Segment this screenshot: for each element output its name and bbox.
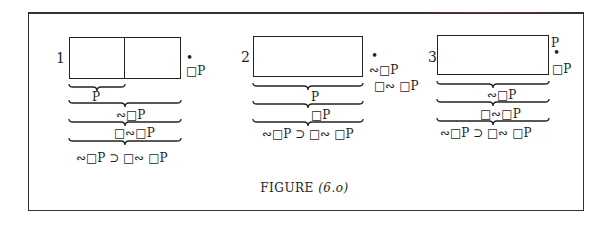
panel-number: 1: [56, 51, 65, 65]
side-label: □P: [186, 65, 205, 77]
brace-icon: [253, 82, 363, 90]
world-dot: •: [553, 47, 560, 59]
formula: ∾□P ⊃ □∾ □P: [440, 127, 532, 139]
world-box: [253, 36, 363, 77]
caption-number: (6.o): [318, 181, 349, 195]
world-dot: •: [371, 50, 378, 62]
side-label: □∾ □P: [374, 80, 419, 92]
world-divider: [124, 38, 125, 78]
formula: ∾□P ⊃ □∾ □P: [76, 152, 168, 164]
formula: ∾□P ⊃ □∾ □P: [262, 128, 354, 140]
brace-icon: [69, 99, 181, 107]
brace-icon: [253, 100, 363, 108]
brace-icon: [437, 80, 549, 88]
panel-number: 2: [241, 50, 250, 64]
panel-number: 3: [428, 50, 437, 64]
side-label: ∾□P: [369, 64, 398, 76]
brace-icon: [437, 117, 549, 125]
brace-icon: [253, 118, 363, 126]
world-box: [69, 37, 181, 79]
world-dot: •: [186, 52, 193, 64]
world-box: [437, 35, 549, 75]
brace-icon: [437, 98, 549, 106]
brace-icon: [69, 137, 181, 145]
caption-label: FIGURE: [260, 181, 314, 195]
side-label: □P: [552, 63, 571, 75]
figure-caption: FIGURE (6.o): [0, 181, 609, 195]
brace-icon: [69, 118, 181, 126]
